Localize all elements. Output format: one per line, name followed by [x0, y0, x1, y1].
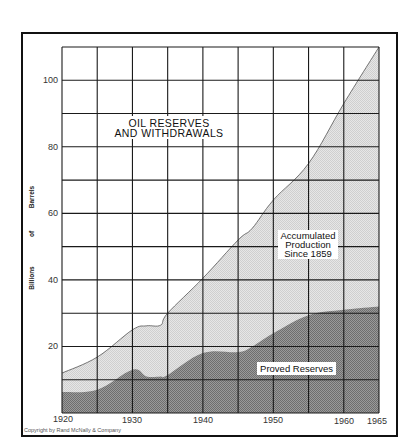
- y-tick-40: 40: [48, 275, 58, 285]
- x-tick-1950: 1950: [263, 415, 283, 425]
- y-tick-60: 60: [48, 208, 58, 218]
- y-tick-20: 20: [48, 341, 58, 351]
- y-label-barrels: Barrels: [28, 185, 35, 208]
- y-axis-ticks: 100 80 60 40 20: [43, 75, 58, 351]
- proved-reserves-label: Proved Reserves: [257, 362, 336, 375]
- y-tick-80: 80: [48, 142, 58, 152]
- title-line-2: AND WITHDRAWALS: [114, 127, 223, 139]
- proved-reserves-text: Proved Reserves: [260, 363, 333, 374]
- x-tick-1930: 1930: [122, 415, 142, 425]
- x-tick-1940: 1940: [193, 415, 213, 425]
- x-tick-1965: 1965: [367, 416, 387, 426]
- y-label-of: of: [28, 230, 35, 237]
- copyright-text: Copyright by Rand McNally & Company: [24, 427, 121, 433]
- x-axis-ticks: 1920 1930 1940 1950 1960 1965: [53, 414, 387, 426]
- oil-reserves-chart: 100 80 60 40 20 1920 1930 1940 1950 1960…: [0, 0, 412, 447]
- y-label-billions: Billions: [28, 266, 35, 290]
- chart-title: OIL RESERVES AND WITHDRAWALS: [114, 116, 223, 139]
- accum-line-3: Since 1859: [284, 248, 332, 259]
- y-tick-100: 100: [43, 75, 58, 85]
- x-tick-1960: 1960: [334, 416, 354, 426]
- accumulated-production-label: Accumulated Production Since 1859: [278, 230, 338, 259]
- y-axis-label: Billions of Barrels: [28, 185, 35, 289]
- x-tick-1920: 1920: [53, 414, 73, 424]
